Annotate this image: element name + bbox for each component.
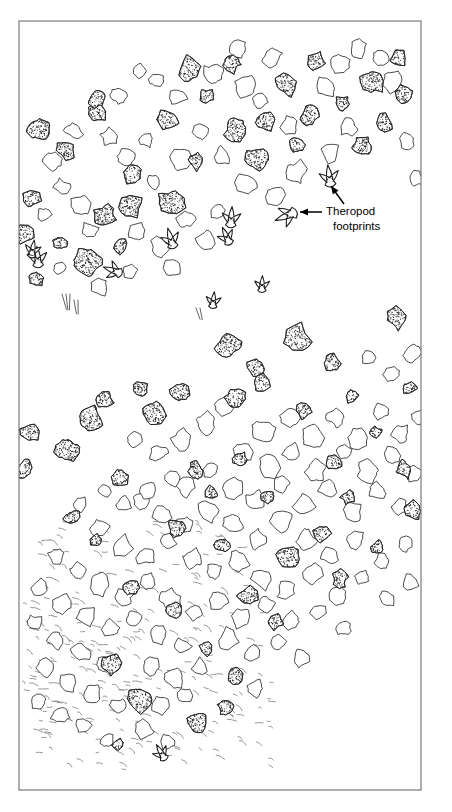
fragment-mark — [147, 741, 152, 742]
outline-clast — [177, 689, 192, 702]
outline-clast — [373, 50, 389, 65]
figure-root: Theropod footprints — [0, 0, 452, 812]
theropod-label-line-2: footprints — [333, 220, 381, 232]
outline-clast — [163, 260, 180, 276]
outline-clast — [128, 222, 145, 239]
theropod-label-line-1: Theropod — [326, 205, 375, 217]
fragment-mark — [268, 698, 271, 699]
outline-clast — [71, 196, 91, 215]
outcrop-map-svg: Theropod footprints — [0, 0, 452, 812]
outline-clast — [27, 615, 42, 629]
